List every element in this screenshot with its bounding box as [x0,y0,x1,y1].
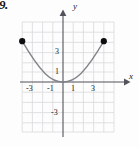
y-tick-label-neg3: -3 [51,108,58,117]
figure-container: 9. [0,0,139,147]
y-axis [60,10,67,138]
x-tick-label-neg3: -3 [26,84,33,93]
x-axis-label: x [129,71,133,81]
y-tick-label-1: 1 [55,67,59,76]
y-tick-label-3: 3 [55,47,59,56]
y-axis-label: y [73,1,77,11]
y-axis-arrow [60,10,67,17]
x-tick-label-neg1: -1 [47,84,54,93]
x-tick-label-1: 1 [71,84,75,93]
coordinate-plane-svg [0,0,139,147]
grid-lines [22,22,114,132]
x-tick-label-3: 3 [91,84,95,93]
endpoint-left [19,38,25,44]
endpoint-right [101,38,107,44]
